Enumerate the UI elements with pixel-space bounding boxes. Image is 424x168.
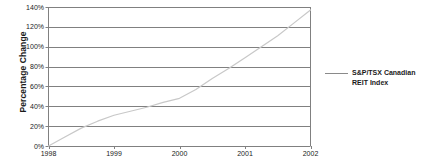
reit-index-line-chart: Percentage Change 0%20%40%60%80%100%120%… (0, 0, 424, 168)
legend-line-swatch-icon (325, 69, 348, 78)
legend-item-label: S&P/TSX Canadian REIT Index (352, 68, 424, 87)
x-tick-label: 2002 (291, 150, 331, 157)
x-tick-label: 2001 (225, 150, 265, 157)
x-tick-label: 2000 (160, 150, 200, 157)
chart-legend: S&P/TSX Canadian REIT Index (325, 68, 424, 87)
legend-item: S&P/TSX Canadian REIT Index (325, 68, 424, 87)
x-tick-label: 1999 (94, 150, 134, 157)
x-tick-label: 1998 (29, 150, 69, 157)
